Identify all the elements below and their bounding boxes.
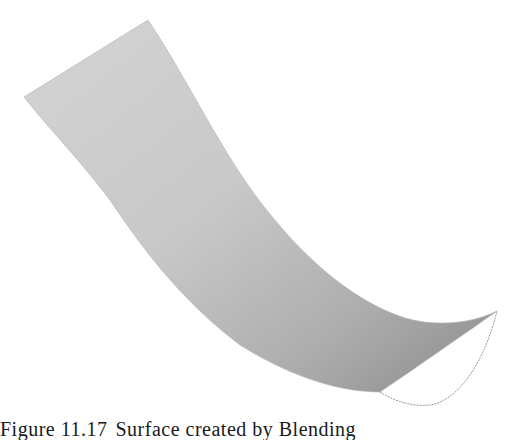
figure-caption-text: Surface created by Blending [115,418,356,440]
figure-caption: Figure 11.17Surface created by Blending [0,418,356,440]
figure-label: Figure 11.17 [0,418,107,440]
blended-surface [24,20,497,392]
